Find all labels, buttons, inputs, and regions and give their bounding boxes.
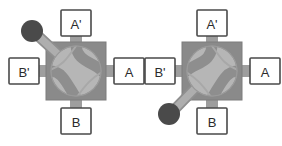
port-label-b-right: B [197, 108, 227, 134]
valve-diagram-figure: A' A B B' [0, 0, 282, 146]
port-label-text: A' [70, 17, 81, 32]
port-label-text: A [261, 65, 270, 80]
port-label-b-prime-right: B' [145, 58, 175, 84]
port-label-b-left: B [61, 108, 91, 134]
lever-knob[interactable] [21, 20, 43, 42]
lever-knob[interactable] [158, 103, 180, 125]
port-label-text: A [125, 65, 134, 80]
port-label-text: B' [18, 65, 29, 80]
port-label-a-left: A [114, 58, 144, 84]
port-label-b-prime-left: B' [9, 58, 39, 84]
port-label-a-prime-left: A' [61, 10, 91, 36]
port-label-a-prime-right: A' [197, 10, 227, 36]
port-label-text: B [72, 115, 81, 130]
port-label-text: B [208, 115, 217, 130]
port-label-text: B' [154, 65, 165, 80]
diagram-canvas: A' A B B' [0, 0, 282, 146]
port-label-a-right: A [250, 58, 280, 84]
port-label-text: A' [206, 17, 217, 32]
